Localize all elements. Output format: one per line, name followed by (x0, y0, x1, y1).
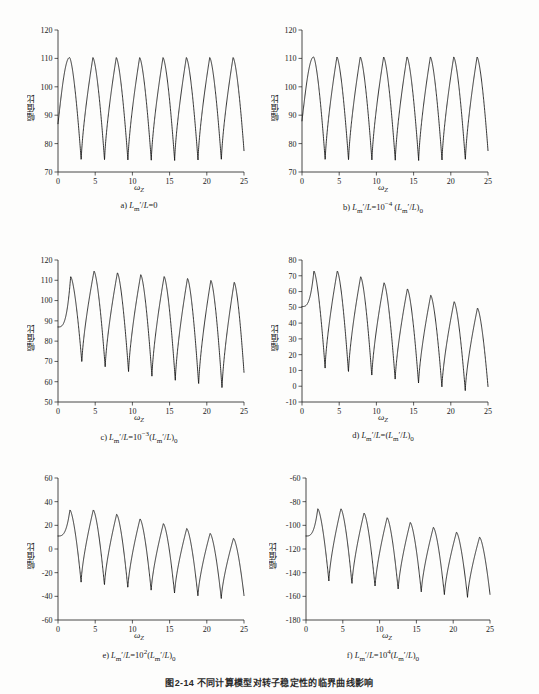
svg-text:110: 110 (41, 54, 53, 63)
panel-a-ticks: 708090100110120 (41, 26, 59, 177)
svg-text:70: 70 (289, 168, 297, 177)
svg-text:80: 80 (289, 140, 297, 149)
svg-text:90: 90 (45, 317, 53, 326)
panel-d-caption: d) Lm′/L=(Lm′/L)0 (268, 430, 498, 443)
panel-e-axes (58, 478, 244, 620)
svg-text:-120: -120 (286, 545, 301, 554)
panel-e-ticks: -60-40-200204060 (42, 474, 58, 625)
svg-text:80: 80 (289, 256, 297, 265)
panel-b-svg: 708090100110120 0510152025 (268, 22, 498, 197)
panel-d-xlabel: ωZ (268, 412, 498, 423)
panel-c-plot: 5060708090100110120 0510152025 (24, 252, 254, 427)
svg-text:-20: -20 (42, 569, 53, 578)
panel-b-plot: 708090100110120 0510152025 (268, 22, 498, 197)
panel-f-curve (306, 509, 490, 598)
panel-a-caption: a) Lm′/L=0 (24, 200, 254, 213)
panel-f: 幅值比 -180-160-140-120-100-80-60 051015202… (268, 470, 498, 685)
panel-a: 幅值比 708090100110120 0510152025 ωZ a) Lm′… (24, 22, 254, 237)
panel-d-curve (302, 271, 488, 391)
svg-text:10: 10 (289, 366, 297, 375)
svg-text:60: 60 (45, 378, 53, 387)
panel-a-plot: 708090100110120 0510152025 (24, 22, 254, 197)
svg-text:50: 50 (45, 398, 53, 407)
panel-e-curve (58, 510, 244, 599)
svg-text:80: 80 (45, 337, 53, 346)
svg-text:-10: -10 (286, 398, 297, 407)
panel-e-svg: -60-40-200204060 0510152025 (24, 470, 254, 645)
panel-b-caption: b) Lm′/L=10−4 (Lm′/L)0 (268, 200, 498, 215)
svg-text:120: 120 (41, 26, 53, 35)
panel-a-svg: 708090100110120 0510152025 (24, 22, 254, 197)
panel-e: 幅值比 -60-40-200204060 0510152025 ωZ e) Lm… (24, 470, 254, 685)
figure-caption: 图2-14 不同计算模型对转子稳定性的临界曲线影响 (0, 676, 539, 689)
svg-text:20: 20 (45, 521, 53, 530)
panel-c-ticks: 5060708090100110120 (41, 256, 59, 407)
svg-text:120: 120 (285, 26, 297, 35)
panel-d: 幅值比 -1001020304050607080 0510152025 ωZ d… (268, 252, 498, 467)
panel-c-svg: 5060708090100110120 0510152025 (24, 252, 254, 427)
svg-text:20: 20 (289, 351, 297, 360)
svg-text:-140: -140 (286, 569, 301, 578)
panel-e-xlabel: ωZ (24, 630, 254, 641)
figure-sheet: 幅值比 708090100110120 0510152025 ωZ a) Lm′… (0, 0, 539, 694)
panel-b-xlabel: ωZ (268, 182, 498, 193)
panel-f-axes (306, 478, 490, 620)
panel-c-caption: c) Lm′/L=10−3(Lm′/L)0 (24, 430, 254, 445)
svg-text:60: 60 (289, 287, 297, 296)
svg-text:-40: -40 (42, 592, 53, 601)
svg-text:70: 70 (289, 272, 297, 281)
svg-text:0: 0 (49, 545, 53, 554)
panel-a-xlabel-text: ωZ (134, 182, 144, 192)
svg-text:40: 40 (289, 319, 297, 328)
svg-text:50: 50 (289, 303, 297, 312)
svg-text:90: 90 (289, 111, 297, 120)
panel-d-ticks: -1001020304050607080 (286, 256, 302, 407)
svg-text:120: 120 (41, 256, 53, 265)
panel-b: 幅值比 708090100110120 0510152025 ωZ b) Lm′… (268, 22, 498, 237)
panel-c-xlabel: ωZ (24, 412, 254, 423)
svg-text:70: 70 (45, 168, 53, 177)
svg-text:-100: -100 (286, 521, 301, 530)
panel-d-plot: -1001020304050607080 0510152025 (268, 252, 498, 427)
panel-c-xlabel-text: ωZ (134, 412, 144, 422)
svg-text:90: 90 (45, 111, 53, 120)
svg-text:-180: -180 (286, 616, 301, 625)
panel-f-ticks: -180-160-140-120-100-80-60 (286, 474, 306, 625)
panel-b-curve (302, 57, 488, 161)
svg-text:-80: -80 (290, 498, 301, 507)
svg-text:-60: -60 (290, 474, 301, 483)
svg-text:30: 30 (289, 335, 297, 344)
panel-e-plot: -60-40-200204060 0510152025 (24, 470, 254, 645)
svg-text:100: 100 (285, 83, 297, 92)
panel-d-svg: -1001020304050607080 0510152025 (268, 252, 498, 427)
svg-text:-60: -60 (42, 616, 53, 625)
panel-f-svg: -180-160-140-120-100-80-60 0510152025 (268, 470, 498, 645)
svg-text:100: 100 (41, 83, 53, 92)
panel-d-xlabel-text: ωZ (378, 412, 388, 422)
panel-c: 幅值比 5060708090100110120 0510152025 ωZ c)… (24, 252, 254, 467)
panel-b-xlabel-text: ωZ (378, 182, 388, 192)
svg-text:70: 70 (45, 357, 53, 366)
svg-text:40: 40 (45, 498, 53, 507)
panel-e-caption: e) Lm′/L=102(Lm′/L)0 (24, 648, 254, 663)
panel-f-caption: f) Lm′/L=104(Lm′/L)0 (268, 648, 498, 663)
svg-text:-160: -160 (286, 592, 301, 601)
panel-f-xlabel-text: ωZ (382, 630, 392, 640)
svg-text:110: 110 (285, 54, 297, 63)
svg-text:100: 100 (41, 296, 53, 305)
svg-text:80: 80 (45, 140, 53, 149)
panel-f-plot: -180-160-140-120-100-80-60 0510152025 (268, 470, 498, 645)
panel-b-ticks: 708090100110120 (285, 26, 303, 177)
panel-d-axes (302, 260, 488, 402)
panel-c-curve (58, 271, 244, 387)
svg-text:0: 0 (293, 382, 297, 391)
panel-a-curve (58, 58, 244, 161)
panel-e-xlabel-text: ωZ (134, 630, 144, 640)
svg-text:110: 110 (41, 276, 53, 285)
panel-f-xlabel: ωZ (272, 630, 502, 641)
panel-a-xlabel: ωZ (24, 182, 254, 193)
panel-c-axes (58, 260, 244, 402)
svg-text:60: 60 (45, 474, 53, 483)
